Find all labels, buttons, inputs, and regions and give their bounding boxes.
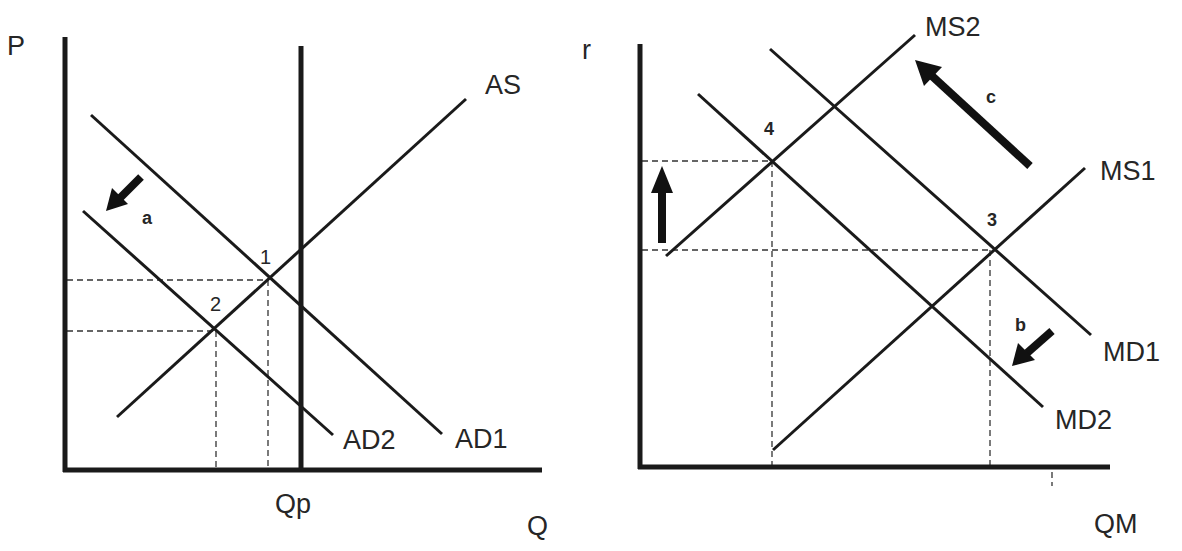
ad2-curve bbox=[83, 211, 333, 435]
md1-label: MD1 bbox=[1103, 337, 1160, 367]
ms2-label: MS2 bbox=[925, 12, 981, 42]
economics-diagram: P Q Qp AS AD1 AD2 1 2 a bbox=[0, 0, 1182, 551]
point-3-label: 3 bbox=[987, 210, 997, 230]
as-curve bbox=[117, 99, 466, 417]
shift-arrow-c-icon bbox=[915, 60, 1030, 166]
quantity-axis-label: Q bbox=[527, 511, 548, 541]
as-label: AS bbox=[485, 70, 521, 100]
as-ad-panel: P Q Qp AS AD1 AD2 1 2 a bbox=[7, 31, 548, 541]
arrow-a-label: a bbox=[142, 208, 153, 228]
money-market-panel: r QM MS1 MS2 MD1 MD2 3 4 b c bbox=[582, 12, 1160, 539]
ad1-curve bbox=[91, 115, 442, 434]
interest-rate-rise-arrow-icon bbox=[651, 166, 673, 243]
interest-rate-axis-label: r bbox=[582, 35, 591, 65]
money-quantity-axis-label: QM bbox=[1094, 509, 1138, 539]
arrow-c-label: c bbox=[986, 87, 996, 107]
point-2-label: 2 bbox=[210, 293, 221, 315]
price-axis-label: P bbox=[7, 31, 25, 61]
point-1-label: 1 bbox=[260, 246, 271, 268]
md1-curve bbox=[770, 49, 1091, 335]
arrow-b-label: b bbox=[1015, 315, 1026, 335]
shift-arrow-b-icon bbox=[1012, 331, 1052, 366]
ms1-label: MS1 bbox=[1100, 156, 1156, 186]
ad1-label: AD1 bbox=[455, 424, 508, 454]
ms1-curve bbox=[773, 168, 1085, 450]
ad2-label: AD2 bbox=[343, 425, 396, 455]
md2-label: MD2 bbox=[1055, 405, 1112, 435]
potential-output-label: Qp bbox=[275, 489, 311, 519]
shift-arrow-a-icon bbox=[106, 177, 141, 211]
point-4-label: 4 bbox=[764, 119, 774, 139]
